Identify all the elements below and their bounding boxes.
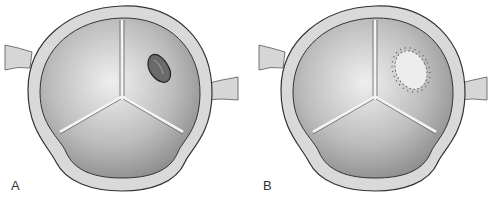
aortic-valve-diagram-a <box>0 0 247 202</box>
panel-a: A <box>0 0 247 202</box>
aortic-valve-diagram-b <box>247 0 494 202</box>
panel-b: B <box>247 0 494 202</box>
vessel-left <box>5 45 32 70</box>
panel-label-a: A <box>11 178 20 193</box>
vessel-left <box>259 45 285 70</box>
panel-label-b: B <box>263 178 272 193</box>
